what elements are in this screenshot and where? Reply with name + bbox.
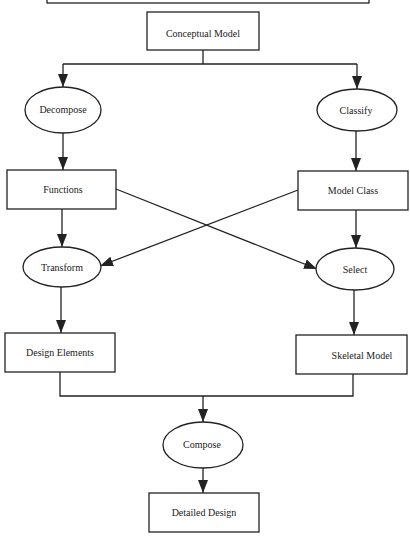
compose-label: Compose [183,439,221,450]
functions-label: Functions [43,184,83,195]
select-label: Select [343,264,368,275]
classify-label: Classify [340,105,373,116]
node-model-class: Model Class [298,171,408,210]
detailed-design-label: Detailed Design [172,507,237,518]
model-class-label: Model Class [328,185,378,196]
design-elements-label: Design Elements [26,347,94,358]
node-design-elements: Design Elements [5,333,115,372]
node-detailed-design: Detailed Design [149,493,259,532]
node-decompose: Decompose [25,87,101,133]
node-classify: Classify [317,89,397,131]
node-skeletal-model: Skeletal Model [296,335,407,374]
arrow-functions-to-select [116,189,317,269]
edge-conceptual-model-split [63,50,357,89]
node-transform: Transform [23,247,101,287]
node-functions: Functions [7,170,116,209]
conceptual-model-label: Conceptual Model [166,28,240,39]
node-compose: Compose [163,422,243,468]
node-conceptual-model: Conceptual Model [147,12,259,50]
edge-merge-to-compose [60,372,353,422]
skeletal-model-label: Skeletal Model [332,350,393,361]
decompose-label: Decompose [39,104,87,115]
arrow-model-class-to-transform [100,190,298,266]
node-top-box [47,0,369,3]
transform-label: Transform [41,262,83,273]
node-select: Select [316,248,394,290]
design-process-diagram: Conceptual Model Decompose Classify Func… [0,0,410,539]
